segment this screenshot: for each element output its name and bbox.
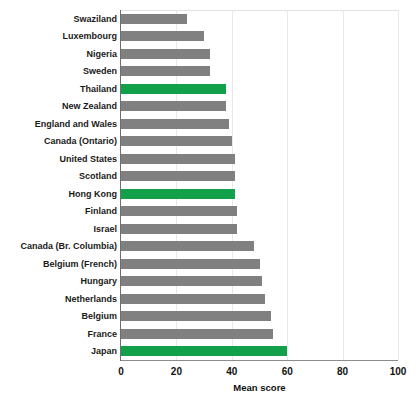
y-axis-line xyxy=(120,10,121,361)
bar-row xyxy=(121,241,398,251)
bar-row xyxy=(121,311,398,321)
bar-row xyxy=(121,189,398,199)
bar xyxy=(121,329,273,339)
bar xyxy=(121,14,187,24)
x-axis-title: Mean score xyxy=(121,382,398,393)
category-axis-labels: SwazilandLuxembourgNigeriaSwedenThailand… xyxy=(0,10,117,360)
category-label: Belgium (French) xyxy=(0,259,117,269)
x-tick-100: 100 xyxy=(390,366,407,377)
x-tick-0: 0 xyxy=(118,366,124,377)
category-label: Hungary xyxy=(0,276,117,286)
gridline-100 xyxy=(398,10,399,360)
category-label: Sweden xyxy=(0,66,117,76)
category-label: Belgium xyxy=(0,311,117,321)
bar-row xyxy=(121,31,398,41)
category-label: Finland xyxy=(0,206,117,216)
bar-row xyxy=(121,206,398,216)
bar xyxy=(121,49,210,59)
bar-row xyxy=(121,224,398,234)
bar xyxy=(121,294,265,304)
bar xyxy=(121,66,210,76)
bar-row xyxy=(121,66,398,76)
category-label: Canada (Ontario) xyxy=(0,136,117,146)
category-label: Thailand xyxy=(0,84,117,94)
bar-row xyxy=(121,101,398,111)
bar xyxy=(121,154,235,164)
bar xyxy=(121,119,229,129)
category-label: Hong Kong xyxy=(0,189,117,199)
bar-row xyxy=(121,276,398,286)
bar-row xyxy=(121,171,398,181)
bar-row xyxy=(121,136,398,146)
bar xyxy=(121,31,204,41)
bar xyxy=(121,224,237,234)
bar xyxy=(121,171,235,181)
bar-row xyxy=(121,329,398,339)
bar xyxy=(121,259,260,269)
category-label: Japan xyxy=(0,346,117,356)
bar-rows xyxy=(121,10,398,360)
category-label: Luxembourg xyxy=(0,31,117,41)
plot-area xyxy=(121,10,398,360)
bar xyxy=(121,346,287,356)
x-tick-20: 20 xyxy=(171,366,182,377)
bar xyxy=(121,189,235,199)
category-label: Israel xyxy=(0,224,117,234)
bar-row xyxy=(121,294,398,304)
x-axis-line xyxy=(121,360,398,361)
bar xyxy=(121,101,226,111)
bar xyxy=(121,311,271,321)
bar-row xyxy=(121,346,398,356)
bar xyxy=(121,206,237,216)
category-label: Swaziland xyxy=(0,14,117,24)
category-label: Canada (Br. Columbia) xyxy=(0,241,117,251)
bar-row xyxy=(121,154,398,164)
category-label: Nigeria xyxy=(0,49,117,59)
category-label: France xyxy=(0,329,117,339)
category-label: United States xyxy=(0,154,117,164)
x-tick-40: 40 xyxy=(226,366,237,377)
bar-row xyxy=(121,49,398,59)
category-label: New Zealand xyxy=(0,101,117,111)
bar xyxy=(121,136,232,146)
bar-row xyxy=(121,14,398,24)
bar-chart: SwazilandLuxembourgNigeriaSwedenThailand… xyxy=(0,0,416,403)
bar xyxy=(121,276,262,286)
category-label: Scotland xyxy=(0,171,117,181)
bar-row xyxy=(121,119,398,129)
x-tick-80: 80 xyxy=(337,366,348,377)
bar-row xyxy=(121,259,398,269)
category-label: England and Wales xyxy=(0,119,117,129)
bar-row xyxy=(121,84,398,94)
bar xyxy=(121,241,254,251)
bar xyxy=(121,84,226,94)
x-tick-60: 60 xyxy=(282,366,293,377)
category-label: Netherlands xyxy=(0,294,117,304)
